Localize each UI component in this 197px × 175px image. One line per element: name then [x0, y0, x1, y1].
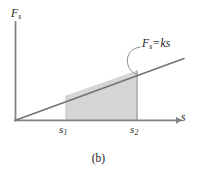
shaded-work-region — [66, 71, 137, 121]
plot-canvas — [0, 0, 197, 175]
equation-annotation: Fs=ks — [142, 38, 170, 50]
spring-force-figure: Fs s s1 s2 Fs=ks (b) — [0, 0, 197, 175]
annotation-leader-curve — [127, 47, 140, 74]
x-tick-label-s1-main: s — [59, 123, 63, 135]
x-tick-label-s2: s2 — [130, 124, 138, 135]
equation-lhs-subscript: s — [149, 42, 152, 51]
y-axis-label: Fs — [11, 8, 21, 20]
x-tick-label-s2-subscript: 2 — [135, 128, 139, 137]
x-tick-label-s1: s1 — [59, 124, 67, 135]
equation-rhs: ks — [161, 37, 171, 49]
equation-equals-sign: = — [152, 37, 161, 49]
x-tick-label-s2-main: s — [130, 123, 134, 135]
y-axis-label-subscript: s — [18, 12, 21, 21]
figure-caption: (b) — [0, 152, 197, 164]
equation-lhs-main: F — [142, 37, 149, 49]
x-axis-label: s — [181, 112, 185, 124]
x-tick-label-s1-subscript: 1 — [64, 128, 68, 137]
y-axis-label-main: F — [11, 7, 18, 19]
